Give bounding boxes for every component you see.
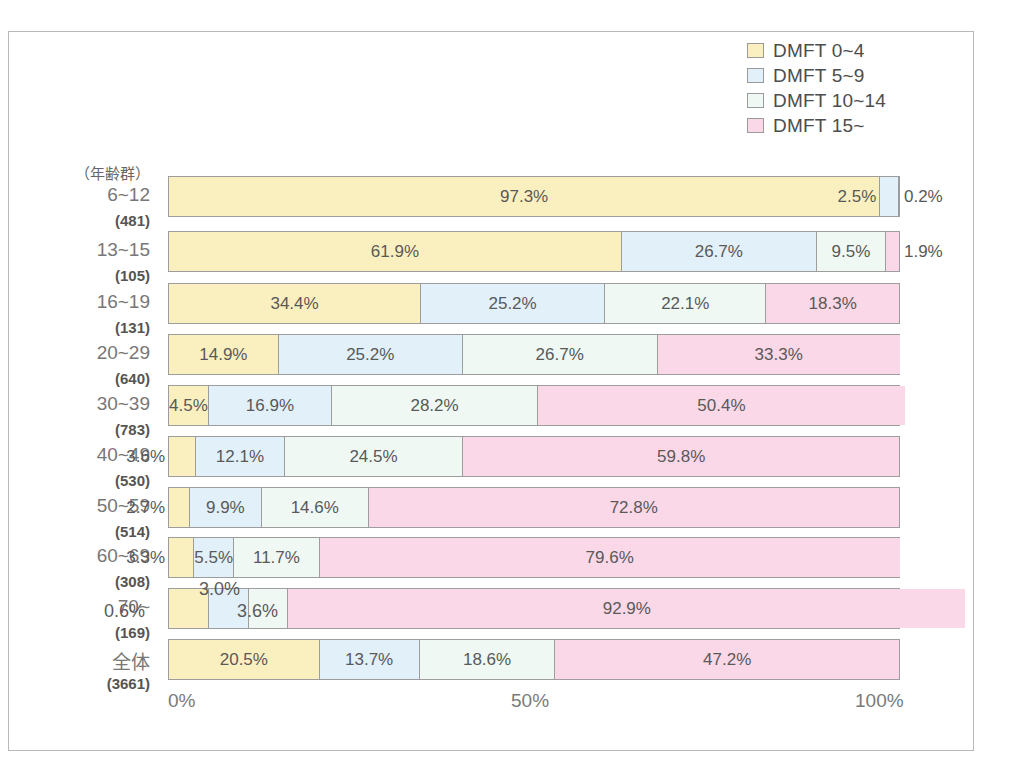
bar-segment-dmft59: 16.9% (208, 386, 331, 425)
bar-segment-dmft04: 14.9% (169, 335, 278, 374)
stacked-bar: 14.9%25.2%26.7%33.3% (168, 334, 900, 375)
segment-value-label: 24.5% (349, 447, 397, 467)
segment-value-label: 20.5% (220, 650, 268, 670)
bar-segment-dmft15: 79.6% (319, 538, 900, 577)
y-axis-count-row-612: (481) (0, 212, 150, 229)
segment-value-label: 14.6% (291, 498, 339, 518)
segment-value-label: 9.5% (832, 242, 871, 262)
bar-row-row-6069: 3.3%5.5%11.7%79.6% (168, 537, 900, 578)
bar-segment-dmft15: 33.3% (657, 335, 900, 374)
bar-segment-dmft1014: 28.2% (331, 386, 537, 425)
y-axis-count-row-2029: (640) (0, 370, 150, 387)
segment-value-label: 5.5% (194, 548, 233, 568)
segment-value-label: 18.6% (463, 650, 511, 670)
y-axis-header: （年齢群） (0, 162, 150, 183)
segment-value-label: 25.2% (488, 294, 536, 314)
bar-segment-dmft1014: 0.2% (898, 177, 899, 216)
segment-value-label: 4.5% (169, 396, 208, 416)
bar-row-row-3039: 4.5%16.9%28.2%50.4% (168, 385, 900, 426)
stacked-bar: 3.3%5.5%11.7%79.6% (168, 537, 900, 578)
bar-segment-dmft1014: 14.6% (261, 488, 368, 527)
bar-segment-dmft04: 4.5% (169, 386, 208, 425)
segment-value-label: 3.6% (126, 447, 165, 467)
stacked-bar: 4.5%16.9%28.2%50.4% (168, 385, 900, 426)
segment-value-label: 11.7% (253, 548, 300, 568)
y-axis-label-row-1315: 13~15 (0, 239, 150, 261)
y-axis-label-row-2029: 20~29 (0, 342, 150, 364)
bar-segment-dmft59: 26.7% (621, 232, 816, 271)
x-tick-50: 50% (511, 690, 549, 712)
bar-segment-dmft1014: 22.1% (604, 284, 765, 323)
segment-value-label: 28.2% (410, 396, 458, 416)
segment-value-label: 2.5% (838, 187, 877, 207)
bar-segment-dmft1014: 9.5% (816, 232, 885, 271)
x-tick-100: 100% (855, 690, 904, 712)
bar-segment-dmft1014: 11.7% (233, 538, 318, 577)
bar-segment-dmft15: 1.9% (885, 232, 899, 271)
bar-segment-dmft59: 2.5% (879, 177, 897, 216)
bar-segment-dmft15: 59.8% (462, 437, 899, 476)
callout-3-0: 3.0% (199, 579, 240, 600)
bar-segment-dmft59: 5.5% (193, 538, 233, 577)
x-tick-0: 0% (168, 690, 195, 712)
bar-segment-dmft15: 92.9% (287, 589, 965, 628)
bar-segment-dmft1014: 18.6% (419, 640, 555, 679)
bar-segment-dmft15: 47.2% (554, 640, 899, 679)
bar-segment-dmft04: 2.7% (169, 488, 189, 527)
segment-value-label: 59.8% (657, 447, 705, 467)
segment-value-label: 33.3% (755, 345, 803, 365)
segment-value-label: 26.7% (695, 242, 743, 262)
bar-segment-dmft59: 12.1% (195, 437, 283, 476)
segment-value-label: 2.7% (126, 498, 165, 518)
y-axis-count-row-70: (169) (0, 624, 150, 641)
segment-value-label: 13.7% (345, 650, 393, 670)
segment-value-label: 26.7% (536, 345, 584, 365)
callout-0-6: 0.6% (104, 601, 145, 622)
bar-segment-dmft04: 20.5% (169, 640, 319, 679)
segment-value-label: 97.3% (500, 187, 548, 207)
bar-row-row-2029: 14.9%25.2%26.7%33.3% (168, 334, 900, 375)
stacked-bar: 2.7%9.9%14.6%72.8% (168, 487, 900, 528)
y-axis-count-row-全体: (3661) (0, 675, 150, 692)
bar-row-row-全体: 20.5%13.7%18.6%47.2% (168, 639, 900, 680)
stacked-bar: 97.3%2.5%0.2% (168, 176, 900, 217)
segment-value-label: 72.8% (610, 498, 658, 518)
bar-segment-dmft1014: 26.7% (462, 335, 657, 374)
y-axis-count-row-6069: (308) (0, 573, 150, 590)
y-axis-count-row-1619: (131) (0, 319, 150, 336)
bar-segment-dmft59: 9.9% (189, 488, 261, 527)
segment-value-label: 50.4% (697, 396, 745, 416)
y-axis-label-row-612: 6~12 (0, 184, 150, 206)
segment-value-label: 25.2% (346, 345, 394, 365)
bar-segment-dmft04: 3.3% (169, 538, 193, 577)
bar-segment-dmft04: 61.9% (169, 232, 621, 271)
segment-value-label: 79.6% (586, 548, 634, 568)
segment-value-label: 18.3% (809, 294, 857, 314)
segment-value-label: 61.9% (371, 242, 419, 262)
segment-value-label: 14.9% (199, 345, 247, 365)
segment-value-label: 34.4% (270, 294, 318, 314)
chart-plot-area: （年齢群） 0% 50% 100% 6~12(481)97.3%2.5%0.2%… (0, 0, 966, 720)
segment-value-label: 16.9% (246, 396, 294, 416)
callout-3-6: 3.6% (237, 601, 278, 622)
stacked-bar: 20.5%13.7%18.6%47.2% (168, 639, 900, 680)
bar-segment-dmft1014: 24.5% (284, 437, 463, 476)
bar-segment-dmft59: 13.7% (319, 640, 419, 679)
stacked-bar: 3.6%12.1%24.5%59.8% (168, 436, 900, 477)
segment-value-label: 92.9% (603, 599, 651, 619)
bar-segment-dmft59: 25.2% (420, 284, 604, 323)
bar-segment-dmft15: 72.8% (368, 488, 899, 527)
bar-segment-dmft15: 18.3% (765, 284, 899, 323)
segment-value-label: 0.2% (904, 187, 943, 207)
bar-row-row-5059: 2.7%9.9%14.6%72.8% (168, 487, 900, 528)
bar-row-row-1619: 34.4%25.2%22.1%18.3% (168, 283, 900, 324)
bar-segment-dmft04: 3.6% (169, 437, 195, 476)
y-axis-count-row-3039: (783) (0, 421, 150, 438)
y-axis-count-row-5059: (514) (0, 523, 150, 540)
segment-value-label: 1.9% (904, 242, 943, 262)
bar-segment-dmft04: 34.4% (169, 284, 420, 323)
segment-value-label: 9.9% (206, 498, 245, 518)
y-axis-count-row-1315: (105) (0, 267, 150, 284)
bar-row-row-612: 97.3%2.5%0.2% (168, 176, 900, 217)
bar-segment-dmft04: 97.3% (169, 177, 879, 216)
